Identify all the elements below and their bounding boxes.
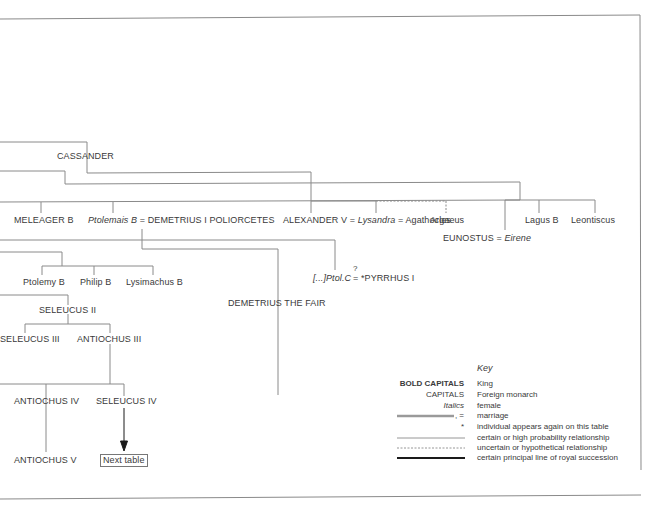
legend-meaning-certain-relationship: certain or high probability relationship [477,433,610,443]
person-antiochus-iii: ANTIOCHUS III [77,334,141,345]
legend-meaning-marriage: marriage [477,411,509,421]
person-cassander: CASSANDER [57,151,114,162]
person-ptolemais: Ptolemais B [88,215,137,225]
person-argaeus: Argaeus [430,215,464,226]
legend-meaning-appears-again: individual appears again on this table [477,422,609,432]
person-lysimachus-b: Lysimachus B [126,277,183,288]
person-lysandra: Lysandra [358,215,396,225]
legend-symbol-marriage: , = [366,411,464,421]
person-ptol-c: [...]Ptol.C [313,273,351,284]
legend-meaning-principal-line: certain principal line of royal successi… [477,453,618,463]
legend-meaning-king: King [477,379,493,389]
person-ptolemy-b: Ptolemy B [23,277,65,288]
legend-meaning-foreign-monarch: Foreign monarch [477,390,537,400]
legend-meaning-female: female [477,401,501,411]
person-group-ptolemais-demetrius: Ptolemais B = DEMETRIUS I POLIORCETES [88,215,275,226]
marriage-sign: = [347,215,358,225]
marriage-sign: = [137,215,148,225]
person-seleucus-iii: SELEUCUS III [0,334,60,345]
person-philip-b: Philip B [80,277,111,288]
legend-title: Key [477,363,493,373]
person-seleucus-iv: SELEUCUS IV [96,396,157,407]
person-demetrius-i: DEMETRIUS I POLIORCETES [148,215,275,225]
person-seleucus-ii: SELEUCUS II [39,305,96,316]
person-antiochus-iv: ANTIOCHUS IV [14,396,79,407]
person-eunostus: EUNOSTUS = [443,233,504,243]
person-antiochus-v: ANTIOCHUS V [14,455,77,466]
person-pyrrhus-i: = *PYRRHUS I [353,273,414,284]
legend-symbol-asterisk: * [366,422,464,432]
person-group-alexander-v: ALEXANDER V = Lysandra = Agathocles [283,215,451,226]
legend-symbol-capitals: CAPITALS [366,390,464,400]
person-eirene: Eirene [504,233,531,243]
person-meleager: MELEAGER B [14,215,74,226]
legend-symbol-italics: Italics [366,401,464,411]
person-alexander-v: ALEXANDER V [283,215,347,225]
person-demetrius-the-fair: DEMETRIUS THE FAIR [228,298,326,309]
legend-symbol-bold-capitals: BOLD CAPITALS [366,379,464,389]
next-table-link[interactable]: Next table [100,454,148,467]
person-group-eunostus: EUNOSTUS = Eirene [443,233,531,244]
legend-meaning-uncertain-relationship: uncertain or hypothetical relationship [477,443,607,453]
person-lagus: Lagus B [525,215,559,226]
person-leontiscus: Leontiscus [571,215,615,226]
